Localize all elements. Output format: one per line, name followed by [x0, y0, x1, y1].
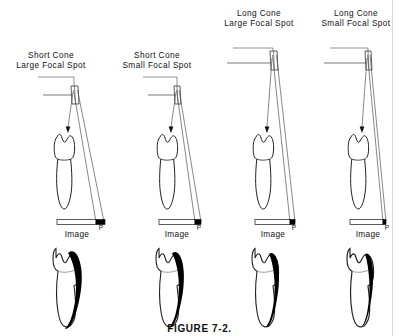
- panel-diagram: [0, 0, 105, 336]
- panel-diagram: [302, 0, 399, 336]
- image-label: Image: [47, 229, 107, 239]
- figure-caption: FIGURE 7-2.: [0, 323, 399, 334]
- image-label: Image: [147, 229, 207, 239]
- panel-long-cone-small-focal-spot: Long Cone Small Focal Spot P Image: [302, 0, 399, 336]
- panel-short-cone-large-focal-spot: Short Cone Large Focal Spot: [0, 0, 105, 336]
- figure-7-2: Short Cone Large Focal Spot: [0, 0, 399, 336]
- panel-diagram: [205, 0, 302, 336]
- panel-diagram: [105, 0, 205, 336]
- image-label: Image: [243, 229, 303, 239]
- image-label: Image: [338, 229, 398, 239]
- panel-long-cone-large-focal-spot: Long Cone Large Focal Spot P Image: [205, 0, 302, 336]
- panel-short-cone-small-focal-spot: Short Cone Small Focal Spot P Image: [105, 0, 205, 336]
